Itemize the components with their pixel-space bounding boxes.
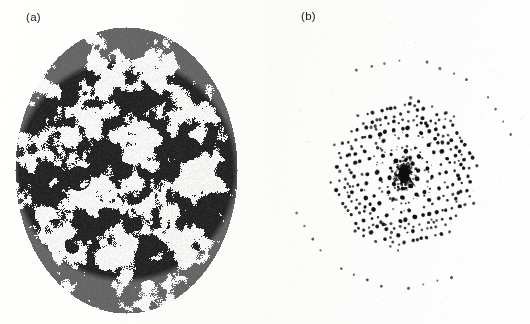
panel-b: (b) bbox=[265, 0, 530, 324]
diffraction-pattern-image bbox=[265, 0, 530, 324]
panel-a-label: (a) bbox=[26, 11, 41, 23]
figure-root: (a) (b) bbox=[0, 0, 530, 324]
quasicrystal-structure-image bbox=[0, 0, 265, 324]
panel-a: (a) bbox=[0, 0, 265, 324]
panel-b-label: (b) bbox=[301, 10, 316, 22]
